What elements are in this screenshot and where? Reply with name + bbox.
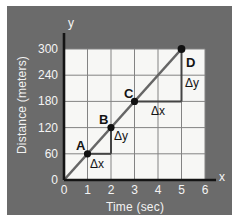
- x-tick-0: 0: [56, 183, 72, 197]
- data-point-d: [178, 45, 186, 53]
- y-axis-title: Distance (meters): [15, 45, 29, 165]
- y-tick-300: 300: [28, 42, 58, 56]
- delta-y-label-cd: Δy: [185, 76, 199, 90]
- x-axis-title: Time (sec): [64, 200, 206, 214]
- delta-x-label-cd: Δx: [151, 104, 165, 118]
- y-tick-120: 120: [28, 121, 58, 135]
- point-label-b: B: [99, 112, 108, 127]
- x-tick-4: 4: [150, 183, 166, 197]
- point-label-c: C: [124, 86, 133, 101]
- figure-container: y x Distance (meters) Time (sec) 300 240…: [0, 0, 241, 224]
- y-tick-240: 240: [28, 68, 58, 82]
- x-tick-2: 2: [103, 183, 119, 197]
- y-tick-60: 60: [28, 147, 58, 161]
- delta-y-label-ab: Δy: [114, 129, 128, 143]
- x-tick-6: 6: [197, 183, 213, 197]
- point-label-d: D: [186, 55, 195, 70]
- x-axis-letter: x: [219, 170, 225, 184]
- x-tick-1: 1: [80, 183, 96, 197]
- x-tick-3: 3: [127, 183, 143, 197]
- point-label-a: A: [76, 138, 85, 153]
- x-tick-5: 5: [174, 183, 190, 197]
- y-tick-180: 180: [28, 94, 58, 108]
- y-axis-letter: y: [68, 16, 74, 30]
- y-tick-0: 0: [28, 173, 58, 187]
- delta-x-label-ab: Δx: [90, 157, 104, 171]
